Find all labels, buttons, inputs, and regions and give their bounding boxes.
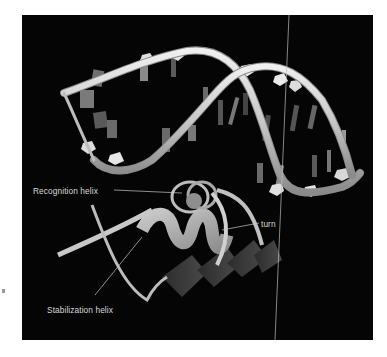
molecular-structure-figure: Recognition helix turn Stabilization hel… (22, 15, 373, 340)
page-margin-mark (2, 289, 5, 293)
turn-label: turn (261, 219, 276, 229)
stabilization-helix-leader (95, 237, 142, 295)
structure-render (22, 15, 373, 340)
protein-ribbon (58, 182, 282, 300)
stabilization-helix-label: Stabilization helix (47, 305, 113, 315)
recognition-helix-label: Recognition helix (33, 186, 98, 196)
